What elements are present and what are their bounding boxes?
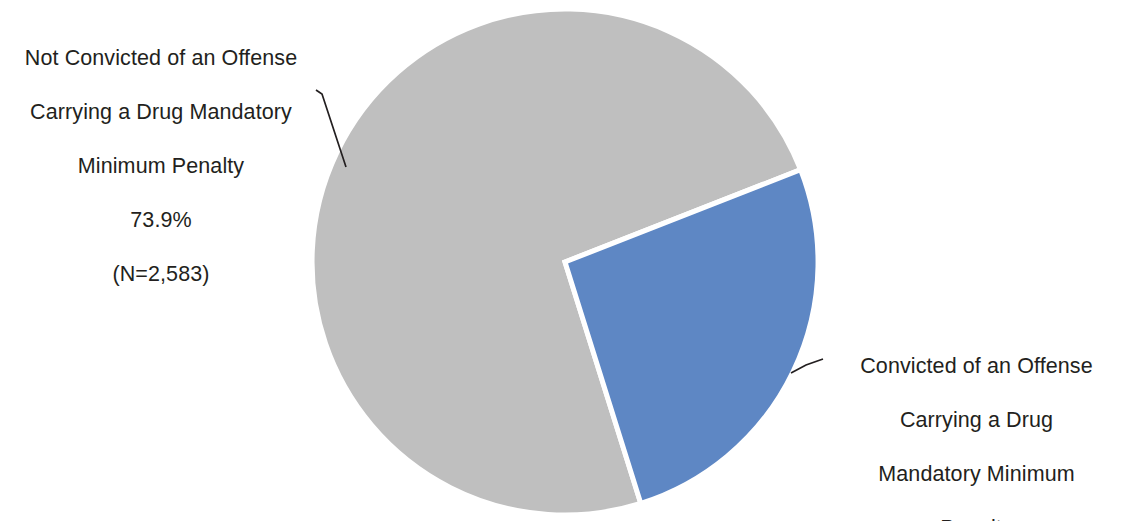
pie-label-right-line-1: Convicted of an Offense bbox=[832, 353, 1121, 380]
pie-label-left-percent: 73.9% bbox=[0, 207, 322, 234]
pie-label-right-line-3: Mandatory Minimum bbox=[832, 461, 1121, 488]
pie-label-convicted: Convicted of an Offense Carrying a Drug … bbox=[832, 326, 1121, 521]
pie-label-right-line-4: Penalty bbox=[832, 515, 1121, 521]
pie-label-left-count: (N=2,583) bbox=[0, 261, 322, 288]
pie-label-left-line-3: Minimum Penalty bbox=[0, 153, 322, 180]
pie-label-not-convicted: Not Convicted of an Offense Carrying a D… bbox=[0, 18, 322, 315]
pie-label-left-line-1: Not Convicted of an Offense bbox=[0, 45, 322, 72]
pie-label-right-line-2: Carrying a Drug bbox=[832, 407, 1121, 434]
pie-label-left-line-2: Carrying a Drug Mandatory bbox=[0, 99, 322, 126]
pie-chart-figure: Not Convicted of an Offense Carrying a D… bbox=[0, 0, 1121, 521]
